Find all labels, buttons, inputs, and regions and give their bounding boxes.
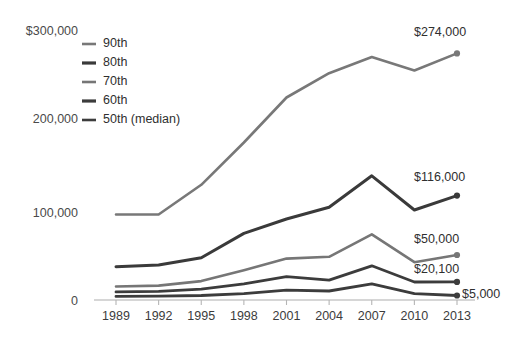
x-tick-label: 2004 <box>315 309 343 323</box>
x-tick-label: 1992 <box>145 309 173 323</box>
endpoint-dot <box>454 279 460 285</box>
endpoint-dot <box>454 50 460 56</box>
x-tick-label: 2010 <box>400 309 428 323</box>
legend-label: 90th <box>103 36 127 50</box>
x-axis <box>94 300 475 305</box>
x-tick-label: 1995 <box>187 309 215 323</box>
x-tick-label: 2013 <box>443 309 471 323</box>
endpoint-dot <box>454 193 460 199</box>
endpoint-dot <box>454 292 460 298</box>
series-layer <box>116 53 457 296</box>
end-value-label: $274,000 <box>414 25 466 39</box>
series-line-90th <box>116 53 457 214</box>
y-tick-label: 0 <box>71 294 78 308</box>
end-value-label: $5,000 <box>462 287 500 301</box>
end-value-label: $116,000 <box>414 170 465 184</box>
legend: 90th80th70th60th50th (median) <box>82 36 180 126</box>
chart-container: $300,000 200,000 100,000 0 $274,000$116,… <box>0 0 510 338</box>
series-line-80th <box>116 176 457 267</box>
x-axis-labels: 198919921995199820012004200720102013 <box>102 309 471 323</box>
x-tick-label: 2001 <box>273 309 301 323</box>
x-tick-label: 1989 <box>102 309 130 323</box>
legend-label: 70th <box>103 74 127 88</box>
percentile-line-chart: $300,000 200,000 100,000 0 $274,000$116,… <box>0 0 510 338</box>
legend-label: 80th <box>103 55 127 69</box>
y-tick-label: 200,000 <box>33 112 78 126</box>
end-value-label: $20,100 <box>414 262 459 276</box>
x-tick-label: 1998 <box>230 309 258 323</box>
end-value-label: $50,000 <box>414 232 459 246</box>
x-tick-label: 2007 <box>358 309 386 323</box>
y-tick-label: $300,000 <box>26 24 78 38</box>
legend-label: 60th <box>103 93 127 107</box>
y-axis-labels: $300,000 200,000 100,000 0 <box>26 24 78 308</box>
legend-label: 50th (median) <box>103 112 180 126</box>
series-line-60th <box>116 266 457 292</box>
endpoint-dot <box>454 252 460 258</box>
y-tick-label: 100,000 <box>33 206 78 220</box>
